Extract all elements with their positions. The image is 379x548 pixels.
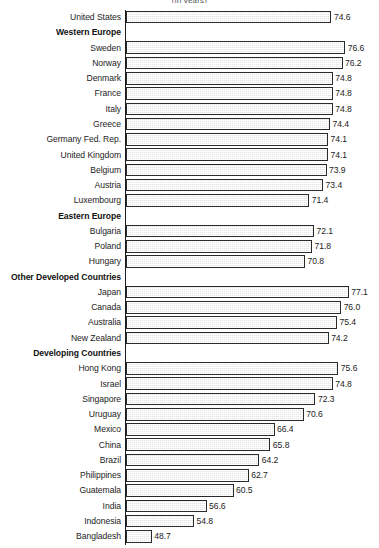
- bar: [126, 423, 275, 436]
- bar: [126, 454, 259, 467]
- category-label: Hungary: [89, 256, 121, 267]
- category-label: Indonesia: [84, 516, 121, 527]
- category-label: Philippines: [80, 470, 121, 481]
- bar: [126, 164, 327, 177]
- category-label: New Zealand: [71, 333, 121, 344]
- group-header-label: Western Europe: [56, 27, 121, 38]
- bar-row: Austria73.4: [0, 178, 379, 193]
- bar-row: Guatemala60.5: [0, 484, 379, 499]
- bar-value-label: 77.1: [351, 287, 368, 298]
- category-label: Guatemala: [79, 485, 121, 496]
- bar-value-label: 74.4: [333, 119, 350, 130]
- bar-value-label: 71.4: [312, 195, 329, 206]
- chart-subtitle: (in years): [0, 0, 379, 3]
- bar-row: Uruguay70.6: [0, 408, 379, 423]
- bar: [126, 484, 234, 497]
- bar-row: Sweden76.6: [0, 41, 379, 56]
- bar-value-label: 74.8: [335, 104, 352, 115]
- bar-value-label: 74.6: [334, 12, 351, 23]
- category-label: Luxembourg: [74, 195, 121, 206]
- bar-value-label: 75.4: [339, 317, 356, 328]
- group-header-label: Developing Countries: [33, 348, 121, 359]
- bar-value-label: 74.8: [335, 379, 352, 390]
- category-label: Sweden: [90, 43, 121, 54]
- category-label: France: [95, 88, 121, 99]
- bar-row: Mexico66.4: [0, 423, 379, 438]
- group-header-row: Western Europe: [0, 26, 379, 41]
- bar-row: Brazil64.2: [0, 453, 379, 468]
- bar-row: Greece74.4: [0, 117, 379, 132]
- bar: [126, 11, 331, 24]
- category-label: Brazil: [100, 455, 121, 466]
- category-label: Belgium: [90, 165, 121, 176]
- bar-value-label: 48.7: [154, 531, 171, 542]
- bar-value-label: 62.7: [251, 470, 268, 481]
- bar-row: Norway76.2: [0, 56, 379, 71]
- bar-value-label: 76.0: [344, 302, 361, 313]
- bar-row: Israel74.8: [0, 377, 379, 392]
- bar: [126, 41, 345, 54]
- bar-value-label: 60.5: [236, 485, 253, 496]
- bar: [126, 255, 305, 268]
- bar: [126, 286, 349, 299]
- category-label: India: [103, 501, 121, 512]
- bar-row: Australia75.4: [0, 316, 379, 331]
- bar-row: Hungary70.8: [0, 255, 379, 270]
- category-label: Mexico: [94, 424, 121, 435]
- bar-value-label: 70.8: [308, 256, 325, 267]
- bar: [126, 500, 207, 513]
- bar-row: United Kingdom74.1: [0, 148, 379, 163]
- category-label: Singapore: [82, 394, 121, 405]
- bar-value-label: 76.2: [345, 58, 362, 69]
- bar: [126, 393, 315, 406]
- bar-row: Poland71.8: [0, 240, 379, 255]
- category-label: Bangladesh: [76, 531, 121, 542]
- category-label: Germany Fed. Rep.: [46, 134, 121, 145]
- life-expectancy-bar-chart: (in years) United States74.6Western Euro…: [0, 0, 379, 548]
- bar: [126, 316, 337, 329]
- bar: [126, 133, 328, 146]
- bar: [126, 72, 333, 85]
- group-header-row: Developing Countries: [0, 346, 379, 361]
- bar-value-label: 76.6: [348, 43, 365, 54]
- category-label: Poland: [95, 241, 121, 252]
- category-label: Hong Kong: [78, 363, 121, 374]
- bar-row: Singapore72.3: [0, 392, 379, 407]
- category-label: China: [99, 440, 121, 451]
- bar-row: Luxembourg71.4: [0, 194, 379, 209]
- bar-row: Belgium73.9: [0, 163, 379, 178]
- bar: [126, 515, 194, 528]
- group-header-row: Eastern Europe: [0, 209, 379, 224]
- bar-row: New Zealand74.2: [0, 331, 379, 346]
- bar-value-label: 64.2: [262, 455, 279, 466]
- bar-value-label: 74.2: [331, 333, 348, 344]
- bar-row: India56.6: [0, 499, 379, 514]
- bar-row: Germany Fed. Rep.74.1: [0, 133, 379, 148]
- bar-row: Canada76.0: [0, 301, 379, 316]
- bar-value-label: 73.9: [329, 165, 346, 176]
- bar-value-label: 74.1: [330, 150, 347, 161]
- bar-row: United States74.6: [0, 11, 379, 26]
- bar-row: Italy74.8: [0, 102, 379, 117]
- category-label: United States: [70, 12, 121, 23]
- category-label: Australia: [88, 317, 121, 328]
- bar-value-label: 56.6: [209, 501, 226, 512]
- group-header-label: Eastern Europe: [58, 211, 121, 222]
- bar: [126, 87, 333, 100]
- category-label: United Kingdom: [61, 150, 121, 161]
- category-label: Austria: [95, 180, 121, 191]
- category-label: Greece: [93, 119, 121, 130]
- bar-value-label: 74.8: [335, 88, 352, 99]
- category-label: Bulgaria: [90, 226, 121, 237]
- bar: [126, 408, 304, 421]
- bar: [126, 377, 333, 390]
- bar-row: Denmark74.8: [0, 72, 379, 87]
- bar-row: Indonesia54.8: [0, 514, 379, 529]
- bar: [126, 530, 152, 543]
- bar-row: Hong Kong75.6: [0, 362, 379, 377]
- bar-row: Philippines62.7: [0, 469, 379, 484]
- bar: [126, 179, 323, 192]
- bar: [126, 438, 270, 451]
- category-label: Israel: [100, 379, 121, 390]
- bar: [126, 148, 328, 161]
